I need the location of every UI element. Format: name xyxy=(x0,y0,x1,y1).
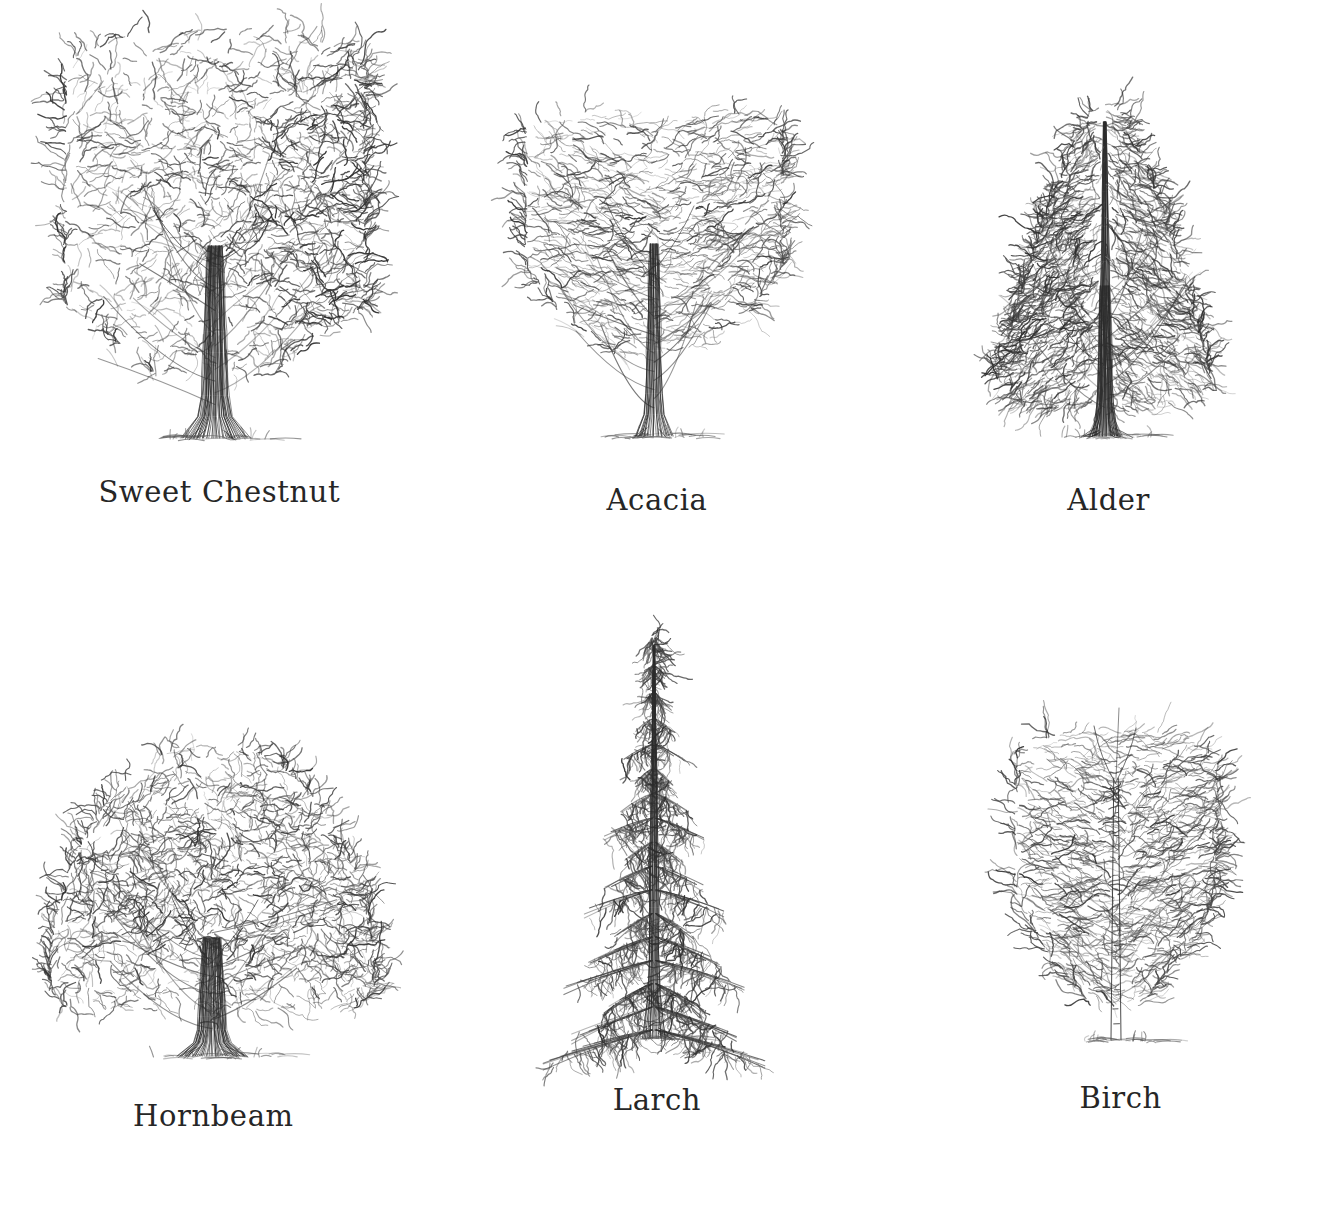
tree-item-alder: Alder xyxy=(881,0,1322,600)
tree-caption-alder: Alder xyxy=(1067,486,1150,515)
tree-illustration-acacia xyxy=(512,96,802,456)
tree-caption-acacia: Acacia xyxy=(607,486,708,515)
tree-illustration-birch xyxy=(1006,718,1236,1058)
tree-item-larch: Larch xyxy=(441,600,882,1202)
tree-illustration-hornbeam xyxy=(34,726,394,1076)
tree-item-hornbeam: Hornbeam xyxy=(0,600,441,1202)
tree-item-sweet-chestnut: Sweet Chestnut xyxy=(0,0,441,600)
tree-illustration-larch xyxy=(542,620,772,1060)
tree-caption-larch: Larch xyxy=(613,1086,701,1115)
tree-caption-birch: Birch xyxy=(1079,1084,1161,1113)
tree-item-birch: Birch xyxy=(881,600,1322,1202)
tree-grid: Sweet Chestnut Acacia Alder Hornbeam Lar… xyxy=(0,0,1322,1222)
tree-plate: Sweet Chestnut Acacia Alder Hornbeam Lar… xyxy=(0,0,1322,1222)
tree-caption-sweet-chestnut: Sweet Chestnut xyxy=(98,478,340,507)
tree-caption-hornbeam: Hornbeam xyxy=(133,1102,294,1131)
tree-illustration-sweet-chestnut xyxy=(47,6,387,456)
tree-item-acacia: Acacia xyxy=(441,0,882,600)
tree-illustration-alder xyxy=(985,96,1235,456)
